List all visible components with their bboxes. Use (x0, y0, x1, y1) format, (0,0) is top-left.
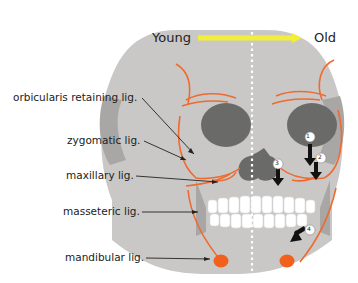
marker-1: 1 (306, 132, 310, 139)
left-mandibular-node (214, 255, 229, 268)
skull-shape (101, 30, 343, 274)
marker-3: 3 (275, 159, 279, 166)
orbicularis-retaining-lig-label: orbicularis retaining lig. (13, 91, 137, 103)
maxillary-lig-label: maxillary lig. (66, 169, 134, 181)
zygomatic-lig-label: zygomatic lig. (67, 134, 140, 146)
young-label: Young (152, 30, 191, 45)
marker-4: 4 (307, 225, 311, 232)
old-label: Old (314, 30, 336, 45)
masseteric-lig-label: masseteric lig. (63, 205, 140, 217)
right-mandibular-node (280, 255, 295, 268)
left-orbit (201, 103, 251, 147)
mandibular-lig-label: mandibular lig. (65, 251, 144, 263)
marker-2: 2 (318, 153, 322, 160)
